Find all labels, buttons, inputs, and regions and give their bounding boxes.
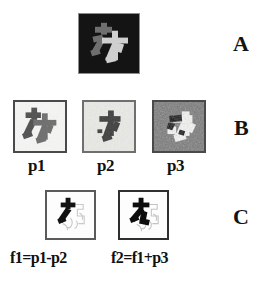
row-letter-a: A bbox=[233, 33, 249, 55]
label-f2: f2=f1+p3 bbox=[111, 250, 168, 266]
f2-image-graphic bbox=[120, 192, 167, 238]
panel-p3 bbox=[152, 100, 206, 153]
p2-image-graphic bbox=[84, 102, 134, 151]
label-p1: p1 bbox=[28, 157, 45, 174]
panel-f2 bbox=[118, 190, 169, 240]
p3-image-graphic bbox=[154, 102, 204, 151]
p1-image-graphic bbox=[15, 102, 65, 151]
label-p2: p2 bbox=[97, 157, 114, 174]
f1-image-graphic bbox=[47, 192, 94, 238]
panel-original-image bbox=[78, 13, 140, 74]
label-f1: f1=p1-p2 bbox=[10, 250, 67, 266]
original-image-graphic bbox=[79, 14, 139, 73]
row-letter-c: C bbox=[233, 206, 249, 228]
panel-p2 bbox=[82, 100, 136, 153]
panel-p1 bbox=[13, 100, 67, 153]
panel-f1 bbox=[45, 190, 96, 240]
row-letter-b: B bbox=[234, 117, 249, 139]
figure-root: A bbox=[0, 0, 268, 283]
label-p3: p3 bbox=[167, 157, 184, 174]
